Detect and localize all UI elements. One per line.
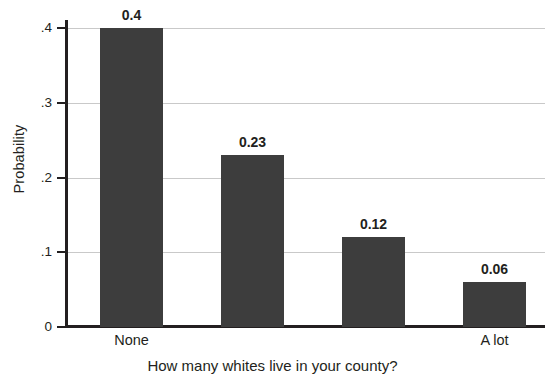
y-tick-label: 0 xyxy=(12,320,52,334)
bar xyxy=(221,155,284,327)
bar xyxy=(100,28,163,327)
x-tick-label: A lot xyxy=(443,333,545,348)
bar-value-label: 0.06 xyxy=(463,262,526,276)
y-axis-title: Probability xyxy=(11,99,27,219)
bar-chart: Probability 0.1.2.3.4 0.40.230.120.06 No… xyxy=(0,0,545,381)
y-tick-label: .2 xyxy=(12,171,52,185)
bar-value-label: 0.4 xyxy=(100,8,163,22)
y-axis-line xyxy=(65,20,68,328)
bar xyxy=(463,282,526,327)
y-tick-label: .3 xyxy=(12,96,52,110)
x-axis-title: How many whites live in your county? xyxy=(0,357,545,374)
x-tick-label: None xyxy=(80,333,183,348)
y-tick-label: .4 xyxy=(12,21,52,35)
bar xyxy=(342,237,405,327)
bar-value-label: 0.12 xyxy=(342,217,405,231)
y-tick-label: .1 xyxy=(12,245,52,259)
bar-value-label: 0.23 xyxy=(221,135,284,149)
